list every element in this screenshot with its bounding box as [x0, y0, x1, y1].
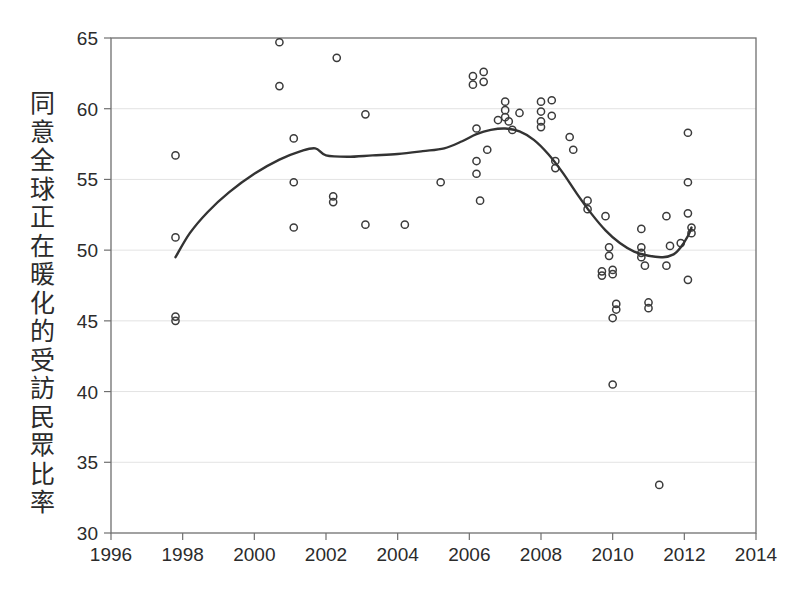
x-tick-label-2000: 2000: [233, 544, 275, 565]
y-axis-title: 同意全球正在暖化的受訪民眾比率: [30, 89, 55, 517]
chart-background: [0, 0, 794, 613]
y-axis-title-char: 同: [30, 89, 55, 118]
y-axis-title-char: 全: [30, 146, 55, 175]
y-axis-title-char: 比: [30, 460, 55, 489]
y-axis-title-char: 化: [30, 289, 55, 318]
scatter-chart-canvas: 1996199820002002200420062008201020122014…: [0, 0, 794, 613]
y-axis-title-char: 受: [30, 346, 55, 375]
y-axis-title-char: 在: [30, 232, 55, 261]
y-axis-title-char: 暖: [30, 260, 55, 289]
x-tick-label-2004: 2004: [377, 544, 420, 565]
x-tick-label-2010: 2010: [592, 544, 634, 565]
y-axis-title-char: 的: [30, 317, 55, 346]
y-tick-label-30: 30: [77, 523, 98, 544]
y-tick-label-45: 45: [77, 311, 98, 332]
x-tick-label-2002: 2002: [305, 544, 347, 565]
chart-figure: 1996199820002002200420062008201020122014…: [0, 0, 794, 613]
y-tick-label-40: 40: [77, 382, 98, 403]
x-tick-label-2014: 2014: [735, 544, 778, 565]
y-axis-title-char: 眾: [30, 431, 55, 460]
y-tick-label-65: 65: [77, 28, 98, 49]
x-tick-label-2012: 2012: [663, 544, 705, 565]
y-axis-title-char: 意: [30, 118, 55, 147]
y-tick-label-55: 55: [77, 169, 98, 190]
x-tick-label-1996: 1996: [90, 544, 132, 565]
y-axis-title-char: 球: [30, 175, 55, 204]
x-tick-label-1998: 1998: [162, 544, 204, 565]
y-axis-title-char: 民: [30, 403, 55, 432]
y-tick-label-60: 60: [77, 99, 98, 120]
y-axis-title-char: 訪: [30, 374, 55, 403]
y-axis-title-char: 率: [30, 488, 55, 517]
x-tick-label-2006: 2006: [448, 544, 490, 565]
y-tick-label-35: 35: [77, 452, 98, 473]
y-tick-label-50: 50: [77, 240, 98, 261]
y-axis-title-char: 正: [30, 203, 55, 232]
x-tick-label-2008: 2008: [520, 544, 562, 565]
